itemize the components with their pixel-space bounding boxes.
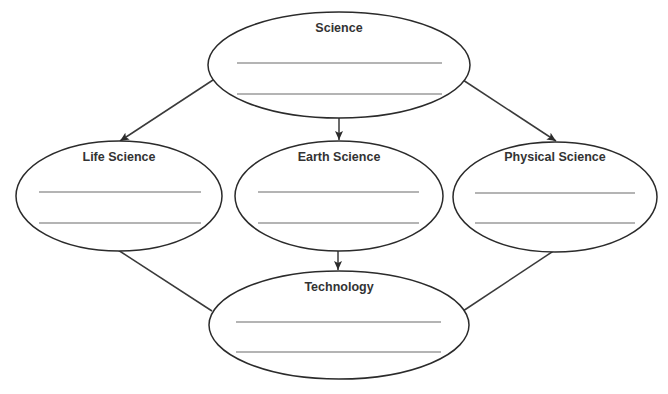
node-science-label: Science xyxy=(315,21,362,35)
node-technology: Technology xyxy=(209,271,469,379)
node-earth-science-label: Earth Science xyxy=(298,150,381,164)
line-physical-science-to-technology xyxy=(463,250,555,311)
arrow-science-to-physical-science xyxy=(463,80,556,141)
arrow-science-to-life-science xyxy=(120,80,213,141)
node-physical-science: Physical Science xyxy=(453,142,657,252)
node-life-science: Life Science xyxy=(16,141,222,251)
line-life-science-to-technology xyxy=(118,250,212,311)
node-science: Science xyxy=(208,12,470,118)
node-technology-label: Technology xyxy=(304,280,373,294)
node-earth-science: Earth Science xyxy=(235,141,443,251)
concept-map: Science Life Science Earth Science Physi… xyxy=(0,0,668,394)
node-life-science-label: Life Science xyxy=(83,150,156,164)
node-physical-science-label: Physical Science xyxy=(504,150,606,164)
